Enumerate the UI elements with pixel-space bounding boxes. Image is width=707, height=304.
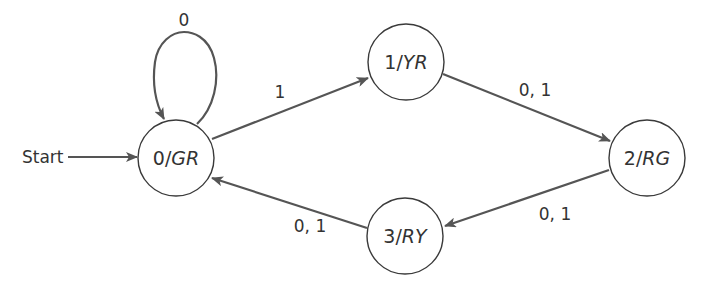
state-label: 3/RY [383, 225, 428, 247]
state-2: 2/RG [609, 120, 685, 196]
transition-label: 0 [179, 10, 190, 30]
transition-label: 1 [275, 82, 286, 102]
arrow [445, 170, 609, 226]
transition-0-to-0: 0 [154, 10, 216, 124]
start-indicator: Start [22, 147, 137, 167]
state-diagram: Start 0 1 0, 1 0, 1 0, 1 0/GR 1/YR 2/RG [0, 0, 707, 304]
transition-label: 0, 1 [539, 204, 571, 224]
start-label: Start [22, 147, 64, 167]
transition-2-to-3: 0, 1 [445, 170, 609, 226]
state-label: 2/RG [624, 147, 670, 169]
arrow [212, 178, 367, 228]
transition-0-to-1: 1 [212, 78, 368, 139]
transition-label: 0, 1 [294, 216, 326, 236]
state-1: 1/YR [368, 24, 444, 100]
state-label: 0/GR [153, 147, 199, 169]
self-loop-arrow [154, 32, 216, 124]
transition-3-to-0: 0, 1 [212, 178, 367, 236]
transition-label: 0, 1 [519, 80, 551, 100]
state-3: 3/RY [367, 198, 443, 274]
arrow [212, 78, 368, 139]
state-0: 0/GR [138, 120, 214, 196]
transition-1-to-2: 0, 1 [443, 74, 610, 141]
state-label: 1/YR [384, 51, 427, 73]
